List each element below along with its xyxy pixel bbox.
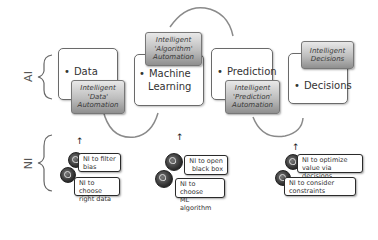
ni-item-open-black-box: NI to open black box [184,155,228,175]
ni-brace [38,135,52,191]
tag-data-automation: Intelligent 'Data' Automation [71,80,125,114]
ni-item-line: NI to open [189,157,223,165]
ni-item-filter-bias: NI to filter bias [78,153,121,172]
stage-ml-label-2: Learning [148,81,191,92]
tag-line: Intelligent [226,84,279,93]
tag-line: 'Prediction' [226,93,279,102]
arc-prediction-to-decisions [253,117,303,137]
tag-algorithm-automation: Intelligent 'Algorithm' Automation [145,32,202,66]
ni-item-choose-data: NI to choose right data [74,177,120,196]
up-arrow-icon: ↑ [76,137,84,146]
arc-data-to-ml [103,110,158,137]
ni-item-line: NI to filter [83,155,116,163]
tag-line: Automation [146,53,201,62]
ni-item-line: black box [189,165,223,173]
stage-ml-label-1: Machine [139,68,191,80]
tag-line: Intelligent [72,84,124,93]
tag-line: Automation [72,101,124,110]
ai-row-label: AI [22,67,35,87]
tag-line: Intelligent [146,36,201,45]
ai-brace [38,55,52,99]
ni-item-line: NI to choose [180,180,220,196]
ni-item-line: NI to optimize [302,156,358,164]
tag-line: Intelligent [302,47,353,56]
ni-row-label: NI [22,154,35,174]
ni-item-choose-ml-algorithm: NI to choose ML algorithm [175,178,225,198]
ni-item-line: NI to choose [79,179,115,195]
up-arrow-icon: ↑ [176,133,184,142]
tag-line: 'Data' [72,93,124,102]
up-arrow-icon: ↑ [292,143,300,152]
ni-item-line: NI to consider [289,179,351,187]
ni-item-line: right data [79,195,115,203]
ni-item-line: bias [83,163,116,171]
tag-intelligent-decisions: Intelligent Decisions [301,41,354,69]
stage-decisions-label: Decisions [294,80,352,92]
tag-prediction-automation: Intelligent 'Prediction' Automation [225,80,280,114]
tag-line: Decisions [302,55,353,64]
ni-item-consider-constraints: NI to consider constraints [284,177,356,196]
brain-head-icon [165,153,183,171]
tag-line: Automation [226,101,279,110]
stage-data-label: Data [64,66,98,78]
brain-head-icon [155,170,173,188]
ni-item-line: ML algorithm [180,196,220,212]
stage-prediction-label: Prediction [217,66,277,78]
ni-item-line: constraints [289,187,351,195]
ni-item-optimize-value: NI to optimize value via decisions [297,154,363,173]
tag-line: 'Algorithm' [146,45,201,54]
